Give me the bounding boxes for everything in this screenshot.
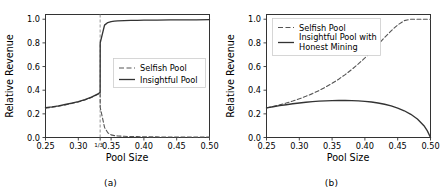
x-tick-label: 0.45	[389, 141, 407, 151]
x-tick-label: 0.40	[356, 141, 374, 151]
x-axis-label-a: Pool Size	[106, 152, 149, 163]
y-tick-label: 0.8	[27, 38, 40, 48]
chart-panel-a: 0.250.300.350.400.450.501/3 0.00.20.40.6…	[0, 0, 221, 192]
x-tick-label: 0.25	[36, 141, 54, 151]
y-tick-label: 0.8	[248, 38, 261, 48]
y-axis-label-a: Relative Revenue	[4, 34, 15, 118]
y-tick-label: 0.4	[248, 85, 261, 95]
y-tick-label: 0.6	[248, 62, 261, 72]
chart-panel-b: 0.250.300.350.400.450.50 0.00.20.40.60.8…	[221, 0, 442, 192]
panel-b-svg: 0.250.300.350.400.450.50 0.00.20.40.60.8…	[221, 0, 442, 166]
y-tick-label: 0.0	[248, 133, 261, 143]
x-tick-label: 0.35	[102, 141, 120, 151]
figure-container: 0.250.300.350.400.450.501/3 0.00.20.40.6…	[0, 0, 442, 192]
y-tick-label: 0.2	[248, 109, 261, 119]
x-tick-label: 0.25	[257, 141, 275, 151]
legend-b[interactable]: Selfish Pool Insightful Pool with Honest…	[273, 19, 381, 56]
y-tick-label: 0.4	[27, 85, 40, 95]
legend-label-selfish-pool-b: Selfish Pool	[299, 23, 346, 33]
legend-label-insightful-honest-line2: Honest Mining	[299, 42, 358, 52]
y-tick-label: 0.0	[27, 133, 40, 143]
x-tick-label: 0.50	[200, 141, 218, 151]
y-tick-label: 0.6	[27, 62, 40, 72]
y-tick-label: 1.0	[27, 14, 40, 24]
legend-a[interactable]: Selfish Pool Insightful Pool	[114, 59, 206, 88]
x-tick-label: 0.45	[168, 141, 186, 151]
x-tick-label: 0.35	[323, 141, 341, 151]
legend-label-selfish-pool-a: Selfish Pool	[140, 63, 187, 73]
panel-caption-b: (b)	[221, 178, 442, 188]
y-tick-label: 1.0	[248, 14, 261, 24]
y-axis-ticks-a: 0.00.20.40.60.81.0	[27, 14, 46, 142]
y-tick-label: 0.2	[27, 109, 40, 119]
y-axis-label-b: Relative Revenue	[225, 34, 236, 118]
panel-a-svg: 0.250.300.350.400.450.501/3 0.00.20.40.6…	[0, 0, 221, 166]
x-tick-label: 0.40	[135, 141, 153, 151]
legend-label-insightful-honest-line1: Insightful Pool with	[299, 32, 377, 42]
x-tick-label: 0.30	[290, 141, 308, 151]
x-axis-ticks-a: 0.250.300.350.400.450.501/3	[36, 138, 218, 152]
legend-label-insightful-pool-a: Insightful Pool	[140, 75, 198, 85]
panel-caption-a: (a)	[0, 178, 221, 188]
x-tick-label: 0.30	[69, 141, 87, 151]
x-axis-ticks-b: 0.250.300.350.400.450.50	[257, 138, 439, 152]
x-tick-label-one-third: 1/3	[94, 142, 103, 148]
y-axis-ticks-b: 0.00.20.40.60.81.0	[248, 14, 267, 142]
x-tick-label: 0.50	[421, 141, 439, 151]
x-axis-label-b: Pool Size	[327, 152, 370, 163]
